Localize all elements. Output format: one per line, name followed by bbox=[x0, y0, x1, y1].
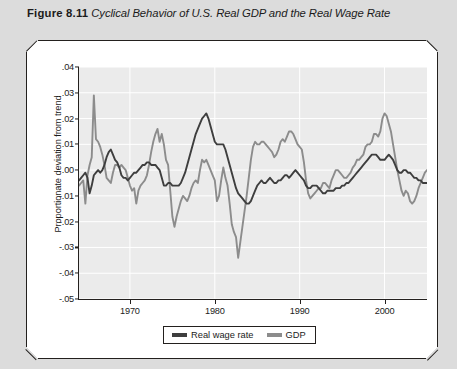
figure-title: Cyclical Behavior of U.S. Real GDP and t… bbox=[91, 7, 390, 19]
y-tick-label: .01 bbox=[62, 139, 74, 149]
x-tick-label: 1970 bbox=[120, 306, 140, 316]
y-tick-mark bbox=[75, 195, 79, 196]
x-tick-label: 2000 bbox=[375, 306, 395, 316]
y-tick-mark bbox=[75, 170, 79, 171]
legend-swatch-gdp bbox=[267, 333, 282, 336]
y-tick-label: .03 bbox=[62, 88, 74, 98]
x-tick-label: 1990 bbox=[290, 306, 310, 316]
figure-page: Figure 8.11 Cyclical Behavior of U.S. Re… bbox=[0, 0, 457, 369]
legend-swatch-real-wage-rate bbox=[172, 333, 187, 336]
y-tick-mark bbox=[75, 118, 79, 119]
y-tick-label: .04 bbox=[62, 62, 74, 72]
chart-lines bbox=[79, 67, 427, 299]
legend-label-gdp: GDP bbox=[286, 330, 306, 340]
x-tick-mark bbox=[300, 300, 301, 304]
y-tick-mark bbox=[75, 144, 79, 145]
chart-plot-region: .04.03.02.01.00-.01-.02-.03-.04-.05 1970… bbox=[79, 67, 427, 305]
legend-label-real-wage-rate: Real wage rate bbox=[191, 330, 254, 340]
y-tick-mark bbox=[75, 66, 79, 67]
x-tick-mark bbox=[385, 300, 386, 304]
figure-number: Figure 8.11 bbox=[27, 7, 88, 19]
y-tick-mark bbox=[75, 273, 79, 274]
y-tick-mark bbox=[75, 298, 79, 299]
x-tick-mark bbox=[130, 300, 131, 304]
y-tick-mark bbox=[75, 92, 79, 93]
y-tick-label: -.04 bbox=[59, 268, 74, 278]
y-tick-label: -.02 bbox=[59, 217, 74, 227]
x-tick-mark bbox=[215, 300, 216, 304]
figure-card: Proportionate deviation from trend .04.0… bbox=[26, 40, 438, 359]
y-axis-line bbox=[78, 67, 79, 299]
figure-caption: Figure 8.11 Cyclical Behavior of U.S. Re… bbox=[27, 6, 437, 21]
legend-item-gdp: GDP bbox=[267, 330, 306, 340]
y-tick-label: -.05 bbox=[59, 294, 74, 304]
y-tick-label: .00 bbox=[62, 165, 74, 175]
legend-item-real-wage-rate: Real wage rate bbox=[172, 330, 254, 340]
y-tick-mark bbox=[75, 221, 79, 222]
y-tick-label: -.03 bbox=[59, 242, 74, 252]
y-tick-label: -.01 bbox=[59, 191, 74, 201]
chart-legend: Real wage rate GDP bbox=[163, 326, 316, 344]
y-tick-label: .02 bbox=[62, 114, 74, 124]
y-tick-mark bbox=[75, 247, 79, 248]
x-tick-label: 1980 bbox=[205, 306, 225, 316]
